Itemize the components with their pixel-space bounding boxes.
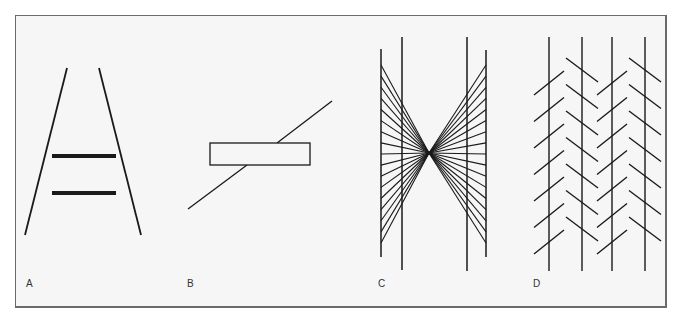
panel-c-hering [381, 37, 486, 271]
panel-b-poggendorff [188, 101, 332, 209]
panel-label-b: B [187, 278, 194, 289]
panel-label-a: A [26, 278, 33, 289]
panel-a-ponzo [25, 68, 141, 235]
panel-d-zollner [534, 37, 661, 271]
panel-label-c: C [378, 278, 385, 289]
panel-label-d: D [533, 278, 540, 289]
illusions-figure [0, 0, 681, 326]
